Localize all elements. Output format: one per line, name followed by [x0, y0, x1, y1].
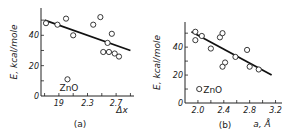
annotation-zno: ZnO: [203, 85, 222, 95]
data-point: [193, 38, 198, 43]
data-point-zno: [197, 86, 202, 91]
data-point: [105, 40, 110, 45]
y-axis-label: E, kcal/mole: [9, 24, 19, 79]
data-point: [43, 21, 48, 26]
x-tick-label: 2.8: [243, 106, 256, 115]
data-point: [256, 67, 261, 72]
panel-b: 020402.02.42.83.2ZnOa, ÅE, kcal/mole(b): [152, 22, 282, 130]
y-axis-label: E, kcal/mole: [152, 35, 162, 90]
y-tick-label: 20: [173, 71, 183, 80]
data-point: [116, 54, 121, 59]
figure: 02040192.32.7ZnOΔxE, kcal/mole(a) 020402…: [0, 0, 298, 139]
x-axis-label: Δx: [115, 105, 128, 115]
data-point: [193, 29, 198, 34]
y-tick-label: 40: [29, 31, 39, 40]
data-point: [101, 49, 106, 54]
data-point: [233, 54, 238, 59]
data-point: [98, 15, 103, 20]
data-point: [222, 60, 227, 65]
x-tick-label: 2.3: [81, 99, 94, 108]
data-point: [208, 46, 213, 51]
y-tick-label: 0: [34, 92, 39, 101]
data-point: [220, 31, 225, 36]
annotation-zno: ZnO: [59, 83, 78, 93]
data-point: [91, 22, 96, 27]
x-tick-label: 2.4: [217, 106, 230, 115]
data-point: [244, 47, 249, 52]
panel-caption: (a): [74, 119, 87, 129]
data-point: [55, 22, 60, 27]
data-point: [247, 64, 252, 69]
data-point: [109, 31, 114, 36]
data-point: [71, 33, 76, 38]
y-tick-label: 20: [29, 62, 39, 71]
x-axis-label: a, Å: [253, 118, 270, 129]
panel-caption: (b): [219, 120, 232, 130]
x-tick-label: 19: [54, 99, 64, 108]
data-point: [63, 16, 68, 21]
panel-a: 02040192.32.7ZnOΔxE, kcal/mole(a): [9, 8, 134, 129]
x-tick-label: 3.2: [269, 106, 282, 115]
y-tick-label: 0: [178, 99, 183, 108]
x-tick-label: 2.0: [192, 106, 205, 115]
y-tick-label: 40: [173, 43, 183, 52]
data-point: [106, 49, 111, 54]
data-point: [199, 33, 204, 38]
data-point-zno: [65, 77, 70, 82]
